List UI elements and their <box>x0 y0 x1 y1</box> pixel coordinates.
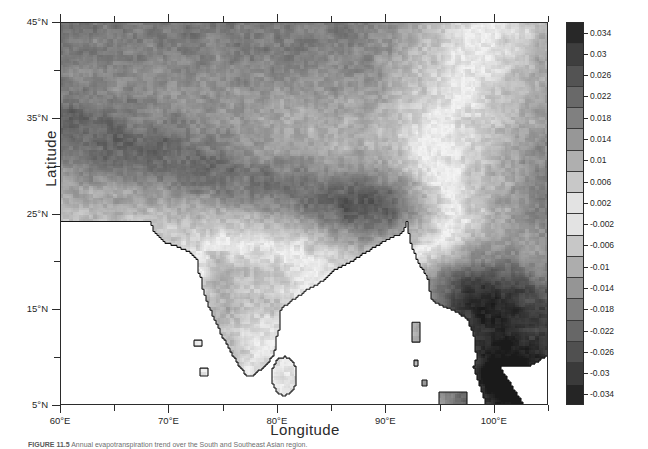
colorbar-segment <box>567 172 583 193</box>
colorbar-tick <box>584 54 588 55</box>
colorbar-tick <box>584 203 588 204</box>
colorbar-tick <box>584 309 588 310</box>
x-tick-minor <box>114 405 115 411</box>
colorbar-tick <box>584 352 588 353</box>
map-plot-area[interactable] <box>60 22 548 405</box>
colorbar-tick <box>584 224 588 225</box>
y-tick-label: 5°N <box>4 399 48 410</box>
colorbar-tick-label: -0.03 <box>590 368 609 378</box>
x-tick-minor <box>440 16 441 22</box>
x-tick-major-bottom <box>277 405 278 413</box>
colorbar-tick-label: 0.014 <box>590 134 611 144</box>
colorbar-segment <box>567 363 583 384</box>
y-tick-major <box>52 118 60 119</box>
colorbar-tick-label: -0.006 <box>590 240 614 250</box>
y-tick-minor <box>54 166 60 167</box>
x-tick-major-bottom <box>494 405 495 413</box>
colorbar-tick <box>584 373 588 374</box>
colorbar-segment <box>567 66 583 87</box>
colorbar-segment <box>567 385 583 405</box>
colorbar-segment <box>567 321 583 342</box>
y-tick-minor <box>54 357 60 358</box>
colorbar-segment <box>567 236 583 257</box>
y-tick-major <box>52 214 60 215</box>
colorbar-tick <box>584 139 588 140</box>
figure-caption-id: FIGURE 11.5 <box>28 441 70 448</box>
colorbar-tick-label: 0.002 <box>590 198 611 208</box>
x-tick-minor <box>114 16 115 22</box>
x-axis-label: Longitude <box>60 421 550 438</box>
colorbar-tick-label: -0.034 <box>590 389 614 399</box>
evapotranspiration-heatmap <box>61 23 547 404</box>
x-tick-major-bottom <box>385 405 386 413</box>
x-tick-minor <box>331 16 332 22</box>
colorbar-tick <box>584 288 588 289</box>
colorbar-title: Evapotranspiration trend (mm/year) <box>618 0 644 48</box>
y-tick-label: 45°N <box>4 16 48 27</box>
colorbar-segment <box>567 193 583 214</box>
colorbar-tick-label: -0.026 <box>590 347 614 357</box>
colorbar-tick-label: -0.01 <box>590 262 609 272</box>
y-tick-minor <box>54 261 60 262</box>
colorbar-tick-label: 0.018 <box>590 113 611 123</box>
y-tick-major <box>52 22 60 23</box>
x-tick-minor <box>223 16 224 22</box>
colorbar-segment <box>567 151 583 172</box>
colorbar-tick-label: 0.01 <box>590 155 607 165</box>
x-tick-major-top <box>385 14 386 22</box>
colorbar-tick-label: -0.002 <box>590 219 614 229</box>
colorbar-tick <box>584 331 588 332</box>
colorbar-tick <box>584 75 588 76</box>
colorbar-segment <box>567 342 583 363</box>
x-tick-major-bottom <box>60 405 61 413</box>
colorbar-tick <box>584 245 588 246</box>
x-tick-major-top <box>60 14 61 22</box>
colorbar-segment <box>567 278 583 299</box>
colorbar-tick-label: -0.022 <box>590 326 614 336</box>
y-tick-label: 35°N <box>4 112 48 123</box>
x-tick-minor <box>440 405 441 411</box>
figure-caption-text: Annual evapotranspiration trend over the… <box>70 441 308 448</box>
x-tick-major-top <box>494 14 495 22</box>
colorbar-tick-label: 0.034 <box>590 28 611 38</box>
colorbar-segment <box>567 23 583 44</box>
x-tick-minor <box>548 405 549 411</box>
colorbar-tick-label: 0.026 <box>590 70 611 80</box>
colorbar-tick <box>584 182 588 183</box>
colorbar-tick-label: -0.018 <box>590 304 614 314</box>
x-tick-major-top <box>168 14 169 22</box>
colorbar-tick <box>584 96 588 97</box>
y-tick-minor <box>54 70 60 71</box>
colorbar-tick <box>584 267 588 268</box>
figure-root: Latitude 45°N35°N25°N15°N5°N 60°E70°E80°… <box>0 0 648 449</box>
colorbar-tick <box>584 33 588 34</box>
colorbar-gradient-bar[interactable] <box>566 22 584 405</box>
colorbar-segment <box>567 44 583 65</box>
colorbar-tick <box>584 394 588 395</box>
colorbar-tick-label: 0.03 <box>590 49 607 59</box>
y-tick-major <box>52 405 60 406</box>
figure-caption: FIGURE 11.5 Annual evapotranspiration tr… <box>28 440 628 449</box>
y-tick-label: 15°N <box>4 303 48 314</box>
colorbar-segment <box>567 87 583 108</box>
x-tick-minor <box>548 16 549 22</box>
colorbar-tick-label: 0.022 <box>590 91 611 101</box>
colorbar-tick <box>584 118 588 119</box>
colorbar-segment <box>567 257 583 278</box>
x-tick-major-bottom <box>168 405 169 413</box>
y-tick-label: 25°N <box>4 208 48 219</box>
colorbar-segment <box>567 129 583 150</box>
colorbar-segment <box>567 214 583 235</box>
x-tick-major-top <box>277 14 278 22</box>
colorbar-segment <box>567 299 583 320</box>
y-tick-major <box>52 309 60 310</box>
colorbar-tick-label: 0.006 <box>590 177 611 187</box>
colorbar-segment <box>567 108 583 129</box>
x-tick-minor <box>331 405 332 411</box>
colorbar-tick <box>584 160 588 161</box>
colorbar-tick-label: -0.014 <box>590 283 614 293</box>
x-tick-minor <box>223 405 224 411</box>
colorbar: 0.0340.030.0260.0220.0180.0140.010.0060.… <box>566 22 648 405</box>
